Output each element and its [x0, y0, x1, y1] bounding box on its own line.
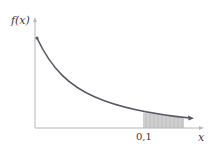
y-axis [33, 17, 37, 128]
x-tick-label: 0,1 [136, 131, 152, 142]
density-curve [37, 38, 190, 118]
curve-start-point [35, 36, 38, 39]
curve-arrowhead-icon [188, 116, 194, 121]
chart-canvas [0, 0, 218, 150]
y-axis-label: f(x) [11, 14, 30, 27]
x-axis-label: x [198, 131, 204, 144]
